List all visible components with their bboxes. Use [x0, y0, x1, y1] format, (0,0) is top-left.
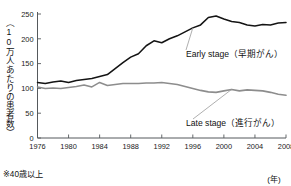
x-tick-label-1980: 1980 — [60, 142, 76, 151]
line-chart-plot: 050100150200250 197619801984198819921996… — [0, 0, 291, 186]
chart-footnote: ※40歳以上 — [3, 167, 43, 179]
series-line-late-stage — [38, 82, 287, 95]
y-axis-ticks: 050100150200250 — [21, 10, 41, 143]
x-tick-label-1996: 1996 — [185, 142, 201, 151]
y-tick-label-50: 50 — [25, 109, 33, 118]
y-tick-label-150: 150 — [21, 59, 33, 68]
x-axis-ticks: 197619801984198819921996200020042008 — [29, 135, 291, 152]
callout-leader-late — [193, 89, 232, 119]
y-axis-title: （10万人あたりの患者数） — [1, 18, 16, 138]
x-tick-label-2008: 2008 — [278, 142, 291, 151]
chart-container: （10万人あたりの患者数） 050100150200250 1976198019… — [0, 0, 291, 186]
series-label-late-stage: Late stage（進行がん） — [186, 117, 280, 128]
y-tick-label-200: 200 — [21, 35, 33, 44]
x-tick-label-1976: 1976 — [29, 142, 45, 151]
x-axis-unit-label: (年) — [267, 174, 281, 184]
y-tick-label-250: 250 — [21, 10, 33, 19]
series-label-early-stage: Early stage（早期がん） — [186, 48, 283, 59]
x-tick-label-2004: 2004 — [247, 142, 263, 151]
x-tick-label-1988: 1988 — [122, 142, 138, 151]
x-tick-label-1984: 1984 — [91, 142, 107, 151]
x-tick-label-1992: 1992 — [154, 142, 170, 151]
y-tick-label-100: 100 — [21, 84, 33, 93]
x-tick-label-2000: 2000 — [216, 142, 232, 151]
